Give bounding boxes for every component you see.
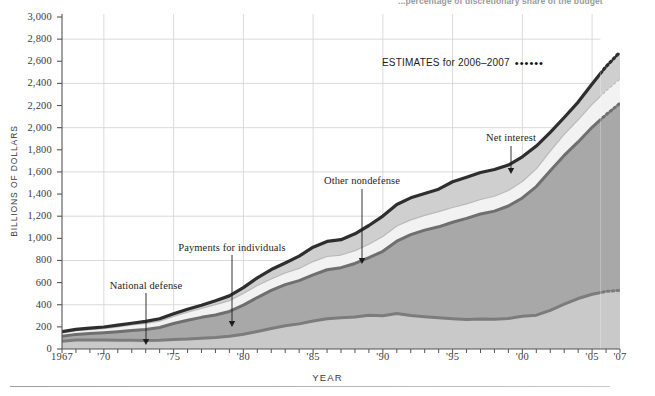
annotation-payments-for-individuals: Payments for individuals (178, 243, 285, 254)
annotation-national-defense: National defense (110, 281, 182, 292)
annotation-other-nondefense: Other nondefense (324, 176, 400, 187)
annotation-net-interest: Net interest (486, 133, 536, 144)
estimates-legend-label: ESTIMATES for 2006–2007 (382, 57, 510, 68)
chart-root: ...percentage of discretionary share of … (0, 0, 655, 396)
estimates-legend: ESTIMATES for 2006–2007•••••• (382, 57, 544, 69)
footer-divider (10, 386, 610, 387)
estimates-dot-swatch: •••••• (515, 57, 544, 69)
plot-area (0, 0, 655, 396)
